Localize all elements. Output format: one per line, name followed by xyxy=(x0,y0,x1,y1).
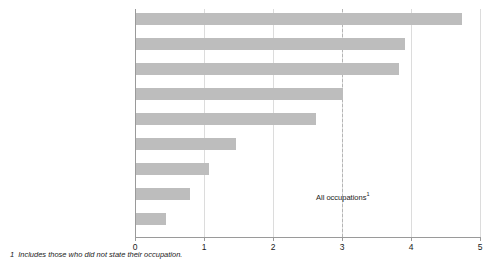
bar xyxy=(135,88,343,100)
bar xyxy=(135,138,236,150)
bar xyxy=(135,163,209,175)
x-tick-label: 3 xyxy=(332,242,352,253)
bar-row: Plant and machine operatives xyxy=(135,184,480,208)
x-axis-line xyxy=(135,237,481,238)
y-axis-line xyxy=(135,9,136,237)
bar-chart: All occupations1 Associate professional … xyxy=(0,0,486,264)
footnote-marker: 1 xyxy=(10,250,14,259)
bar-row: Other xyxy=(135,209,480,233)
bar xyxy=(135,113,316,125)
x-tick xyxy=(135,237,136,241)
bar xyxy=(135,188,190,200)
bar-row: Craft and related xyxy=(135,134,480,158)
x-tick xyxy=(273,237,274,241)
x-tick xyxy=(204,237,205,241)
bar-row: Professional xyxy=(135,109,480,133)
bar-row: Managers and administrators xyxy=(135,34,480,58)
x-tick-label: 1 xyxy=(194,242,214,253)
x-tick-label: 5 xyxy=(470,242,486,253)
footnote-text: Includes those who did not state their o… xyxy=(18,250,182,259)
x-tick xyxy=(480,237,481,241)
bar-row: Personal and protective services xyxy=(135,84,480,108)
x-tick xyxy=(342,237,343,241)
footnote: 1Includes those who did not state their … xyxy=(10,250,182,259)
bar xyxy=(135,63,399,75)
bar xyxy=(135,13,462,25)
x-tick-label: 4 xyxy=(401,242,421,253)
x-tick-label: 2 xyxy=(263,242,283,253)
bar xyxy=(135,38,405,50)
bar xyxy=(135,213,166,225)
bar-row: Sales xyxy=(135,159,480,183)
gridline-5 xyxy=(480,9,481,237)
x-tick xyxy=(411,237,412,241)
plot-area: All occupations1 Associate professional … xyxy=(135,9,480,237)
bar-row: Clerical and secretarial xyxy=(135,59,480,83)
bar-row: Associate professional and technical xyxy=(135,9,480,33)
